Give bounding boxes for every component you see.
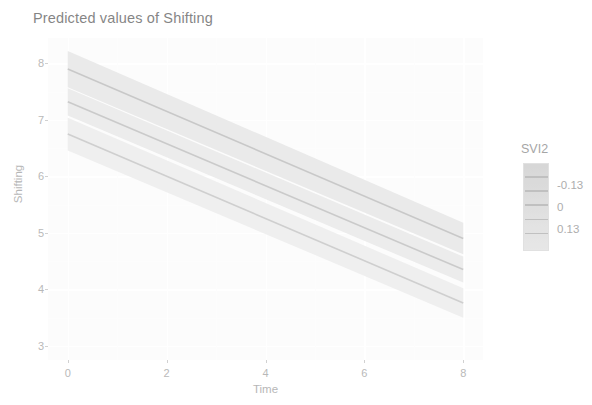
y-tick-label: 7 xyxy=(24,114,44,126)
y-tickmark xyxy=(45,120,48,121)
y-tick-label: 5 xyxy=(24,227,44,239)
y-tick-label: 3 xyxy=(24,340,44,352)
y-tick-label: 6 xyxy=(24,170,44,182)
y-tickmark xyxy=(45,233,48,234)
legend-label: 0.13 xyxy=(557,223,579,235)
legend-body: -0.1300.13 xyxy=(521,163,592,255)
chart-title: Predicted values of Shifting xyxy=(33,10,213,26)
legend: SVI2 -0.1300.13 xyxy=(521,142,592,255)
x-tick-label: 4 xyxy=(262,367,268,379)
x-tick-label: 2 xyxy=(164,367,170,379)
legend-rule xyxy=(525,176,549,177)
x-tick-label: 8 xyxy=(460,367,466,379)
x-tickmark xyxy=(266,360,267,363)
legend-label: 0 xyxy=(557,201,563,213)
plot-panel xyxy=(48,38,483,360)
plot-data-layer xyxy=(48,38,483,360)
y-tick-label: 4 xyxy=(24,283,44,295)
x-axis-title: Time xyxy=(48,383,483,395)
x-tickmark xyxy=(364,360,365,363)
x-tick-label: 6 xyxy=(361,367,367,379)
legend-label: -0.13 xyxy=(557,179,583,191)
legend-rule xyxy=(525,204,549,205)
y-tickmark xyxy=(45,63,48,64)
prediction-line xyxy=(68,102,463,270)
legend-title: SVI2 xyxy=(521,142,592,156)
y-tickmark xyxy=(45,346,48,347)
x-tickmark xyxy=(463,360,464,363)
y-tickmark xyxy=(45,176,48,177)
y-tick-label: 8 xyxy=(24,57,44,69)
legend-colorbar xyxy=(523,163,549,251)
x-tickmark xyxy=(167,360,168,363)
y-axis-title: Shifting xyxy=(12,154,24,214)
y-tickmark xyxy=(45,289,48,290)
x-tick-label: 0 xyxy=(65,367,71,379)
legend-rule xyxy=(525,190,549,191)
legend-rule xyxy=(525,219,549,220)
x-tickmark xyxy=(68,360,69,363)
legend-rule xyxy=(525,233,549,234)
x-axis-tick-labels: 02468 xyxy=(0,367,592,383)
chart-figure: Predicted values of Shifting 345678 Shif… xyxy=(0,0,592,405)
